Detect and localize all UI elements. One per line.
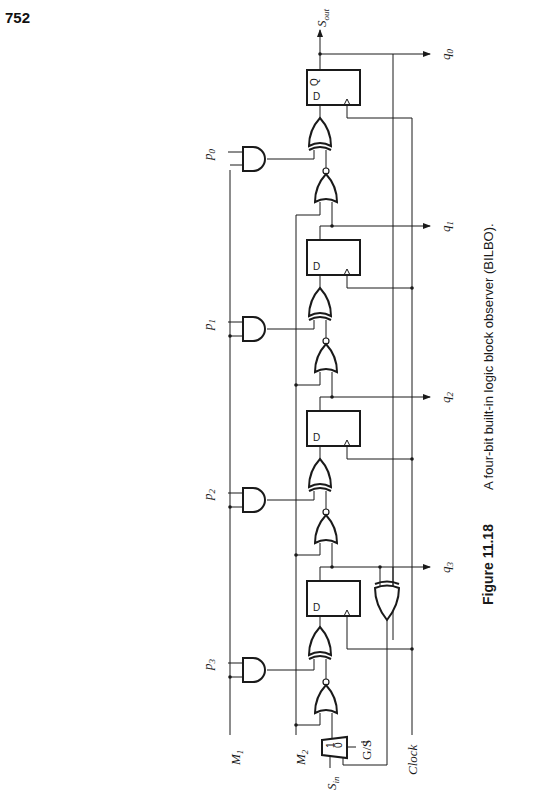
stage-1: D p1 q1 — [200, 221, 455, 397]
figure-caption: Figure 11.18 A four-bit built-in logic b… — [480, 223, 496, 605]
q1-label: q1 — [438, 221, 455, 232]
svg-text:q2: q2 — [438, 392, 455, 404]
m2-label: M2 — [293, 749, 310, 766]
figure-caption-text: A four-bit built-in logic block observer… — [481, 223, 496, 490]
stage-0: Q D p0 q0 — [200, 49, 455, 227]
p0-label: p0 — [200, 149, 217, 162]
svg-text:Sout: Sout — [314, 9, 331, 28]
svg-text:Sin: Sin — [324, 776, 341, 790]
s-out-label: Sout — [314, 9, 331, 28]
s-in-label: Sin — [324, 776, 341, 790]
m1-label: M1 — [228, 750, 245, 766]
svg-text:Q: Q — [309, 78, 320, 86]
svg-text:p2: p2 — [200, 489, 217, 502]
svg-text:D: D — [313, 602, 320, 613]
svg-text:G/S: G/S — [359, 740, 374, 760]
svg-text:p1: p1 — [200, 319, 217, 331]
svg-text:M2: M2 — [293, 749, 310, 766]
p3-label: p3 — [200, 659, 217, 672]
q2-label: q2 — [438, 392, 455, 404]
svg-text:Clock: Clock — [405, 744, 420, 775]
bilbo-circuit-diagram: Sout Q D p0 q0 D — [0, 0, 552, 791]
and-gate-0 — [243, 147, 265, 171]
svg-text:p3: p3 — [200, 659, 217, 672]
q0-label: q0 — [438, 49, 455, 61]
mux: 1 0 — [322, 737, 356, 768]
svg-text:q0: q0 — [438, 49, 455, 61]
nor-gate-0 — [315, 174, 337, 202]
svg-text:q1: q1 — [438, 221, 455, 232]
clock-label: Clock — [405, 744, 420, 775]
svg-text:D: D — [313, 91, 320, 102]
xor-gate-0 — [309, 118, 331, 150]
p2-label: p2 — [200, 489, 217, 502]
svg-text:D: D — [313, 261, 320, 272]
svg-text:p0: p0 — [200, 149, 217, 162]
p1-label: p1 — [200, 319, 217, 331]
svg-text:0: 0 — [333, 742, 344, 748]
figure-label: Figure 11.18 — [480, 524, 496, 605]
svg-text:M1: M1 — [228, 750, 245, 766]
svg-text:D: D — [313, 432, 320, 443]
gs-label: G/S — [359, 740, 374, 760]
stage-3: D p3 q3 — [200, 562, 455, 741]
svg-text:q3: q3 — [438, 562, 455, 574]
stage-2: D p2 q2 — [200, 392, 455, 568]
q3-label: q3 — [438, 562, 455, 574]
